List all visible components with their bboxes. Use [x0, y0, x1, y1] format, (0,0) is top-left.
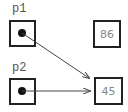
arrow-p1-to-45 — [22, 33, 89, 78]
pointer-arrows — [0, 0, 128, 112]
